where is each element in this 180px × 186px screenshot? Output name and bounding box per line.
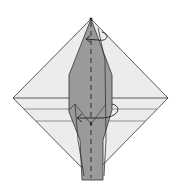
diagram-svg xyxy=(0,0,180,186)
origami-diagram xyxy=(0,0,180,186)
center-point xyxy=(90,123,92,125)
top-point xyxy=(90,18,93,21)
